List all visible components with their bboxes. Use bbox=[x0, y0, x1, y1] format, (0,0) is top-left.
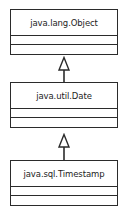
uml-class-java-sql-timestamp[interactable]: java.sql.Timestamp bbox=[10, 160, 118, 206]
class-name-label: java.util.Date bbox=[36, 91, 92, 101]
class-attributes-compartment bbox=[11, 36, 117, 45]
class-operations-compartment bbox=[11, 45, 117, 54]
uml-class-diagram-canvas: java.lang.Object java.util.Date java.sql… bbox=[0, 0, 127, 217]
hollow-triangle-arrowhead-icon bbox=[59, 135, 69, 148]
uml-class-java-lang-object[interactable]: java.lang.Object bbox=[10, 9, 118, 55]
class-name-compartment: java.sql.Timestamp bbox=[11, 161, 117, 187]
uml-class-java-util-date[interactable]: java.util.Date bbox=[10, 82, 118, 128]
class-name-compartment: java.lang.Object bbox=[11, 10, 117, 36]
generalization-arrow-date-to-object bbox=[53, 56, 75, 84]
class-attributes-compartment bbox=[11, 187, 117, 196]
class-name-compartment: java.util.Date bbox=[11, 83, 117, 109]
generalization-arrow-timestamp-to-date bbox=[53, 133, 75, 163]
class-name-label: java.sql.Timestamp bbox=[23, 169, 104, 179]
class-operations-compartment bbox=[11, 118, 117, 127]
hollow-triangle-arrowhead-icon bbox=[59, 58, 69, 71]
class-operations-compartment bbox=[11, 196, 117, 205]
class-attributes-compartment bbox=[11, 109, 117, 118]
class-name-label: java.lang.Object bbox=[30, 18, 98, 28]
